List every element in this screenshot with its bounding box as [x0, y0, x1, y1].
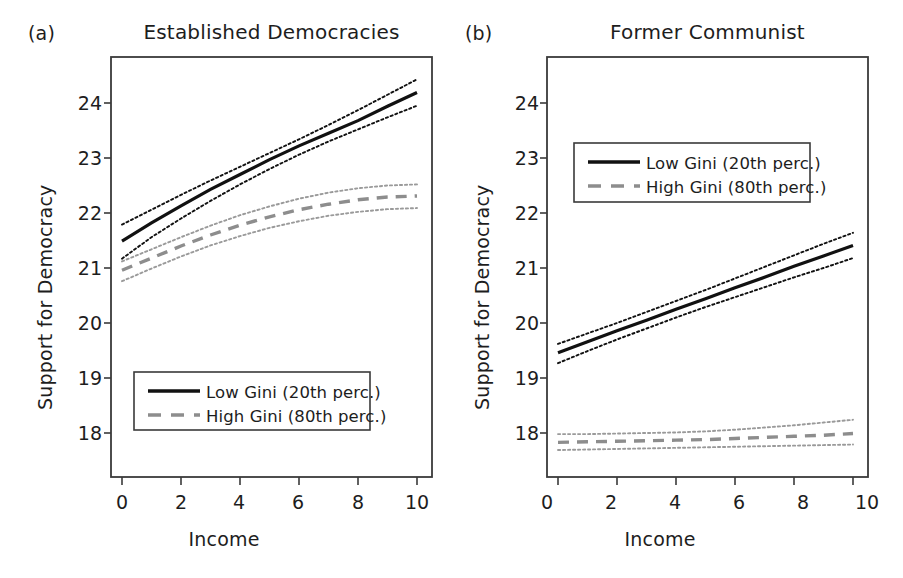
plot-area-a: [0, 0, 451, 578]
confidence-band-line: [122, 208, 417, 281]
plot-area-b: [451, 0, 902, 578]
line-high-gini: [558, 434, 853, 443]
confidence-band-line: [558, 445, 853, 451]
confidence-band-line: [122, 79, 417, 224]
panel-established-democracies: (a) Established Democracies Support for …: [0, 0, 451, 578]
line-low-gini: [122, 93, 417, 242]
panel-former-communist: (b) Former Communist Support for Democra…: [451, 0, 902, 578]
legend-label-high-gini-a: High Gini (80th perc.): [206, 407, 386, 426]
legend-label-high-gini-b: High Gini (80th perc.): [646, 178, 826, 197]
confidence-band-line: [122, 184, 417, 261]
confidence-band-line: [122, 106, 417, 259]
confidence-band-line: [558, 258, 853, 363]
plot-frame: [547, 57, 868, 477]
confidence-band-line: [558, 233, 853, 344]
legend-label-low-gini-b: Low Gini (20th perc.): [646, 154, 821, 173]
confidence-band-line: [558, 420, 853, 434]
line-low-gini: [558, 245, 853, 352]
legend-label-low-gini-a: Low Gini (20th perc.): [206, 383, 381, 402]
